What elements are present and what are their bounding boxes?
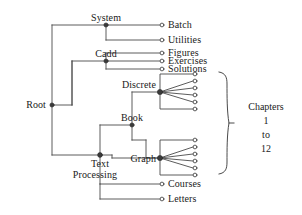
chapter-circle-8 (193, 145, 197, 149)
node-dot-system (104, 23, 108, 27)
chapters-brace (219, 72, 234, 174)
edge-graph-chapters (160, 140, 193, 175)
leaf-circle-solutions (160, 67, 164, 71)
node-label-graph: Graph (108, 153, 156, 164)
edge-root-cadd (52, 61, 106, 105)
node-label-root: Root (8, 99, 46, 110)
edge-root-text-processing (52, 105, 100, 155)
node-dot-discrete (157, 89, 162, 94)
node-dot-text-processing (98, 153, 103, 158)
leaf-label-courses: Courses (168, 178, 201, 189)
leaf-label-letters: Letters (168, 193, 196, 204)
chapter-circle-2 (193, 79, 197, 83)
node-dot-book (130, 123, 134, 127)
brace-label-from: 1 (236, 114, 296, 127)
edge-discrete-chapters (160, 74, 193, 109)
node-label-system: System (76, 12, 136, 23)
leaf-circle-figures (160, 51, 164, 55)
node-label-discrete: Discrete (106, 79, 156, 90)
edge-system-children (106, 25, 160, 40)
chapter-circle-11 (193, 166, 197, 170)
node-dot-graph (157, 155, 162, 160)
chapter-circle-7 (193, 138, 197, 142)
leaf-label-solutions: Solutions (168, 63, 207, 74)
chapter-circle-10 (193, 159, 197, 163)
chapter-circle-9 (193, 152, 197, 156)
leaf-label-batch: Batch (168, 19, 192, 30)
chapter-circle-3 (193, 86, 197, 90)
chapter-circle-6 (193, 107, 197, 111)
node-label-text-processing-line2: Processing (42, 169, 148, 180)
chapter-circle-4 (193, 93, 197, 97)
node-label-book: Book (104, 112, 160, 123)
chapter-circle-5 (193, 100, 197, 104)
leaf-circle-batch (160, 23, 164, 27)
tree-diagram: Root System Cadd Text Processing Book Di… (0, 0, 302, 215)
leaf-circle-exercises (160, 59, 164, 63)
node-dot-root (50, 103, 54, 107)
brace-label-chapters: Chapters (236, 100, 296, 113)
node-dot-cadd (104, 59, 108, 63)
leaf-circle-utilities (160, 38, 164, 42)
leaf-circle-letters (160, 197, 164, 201)
brace-label-until: 12 (236, 142, 296, 155)
edge-book-children (132, 92, 160, 158)
brace-label-to: to (236, 128, 296, 141)
chapter-circle-12 (193, 173, 197, 177)
leaf-circle-courses (160, 182, 164, 186)
node-label-cadd: Cadd (76, 48, 136, 59)
edge-root-trunk (52, 25, 106, 105)
leaf-label-utilities: Utilities (168, 34, 201, 45)
